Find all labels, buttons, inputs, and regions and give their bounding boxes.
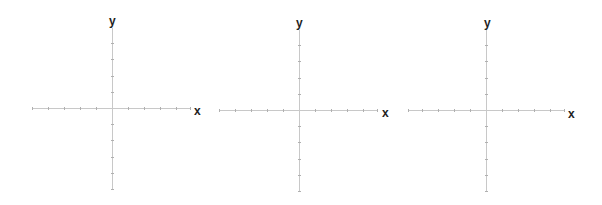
coordinate-plane-3: y x — [400, 0, 602, 205]
x-axis-label: x — [382, 107, 389, 119]
y-axis-label: y — [296, 17, 303, 29]
coordinate-plane-2: y x — [200, 0, 400, 205]
x-axis-label: x — [568, 108, 575, 120]
axes-graphic — [400, 0, 602, 205]
axes-graphic — [0, 0, 200, 205]
axes-graphic — [200, 0, 400, 205]
y-axis-label: y — [109, 15, 116, 27]
coordinate-plane-1: y x — [0, 0, 200, 205]
y-axis-label: y — [484, 17, 491, 29]
